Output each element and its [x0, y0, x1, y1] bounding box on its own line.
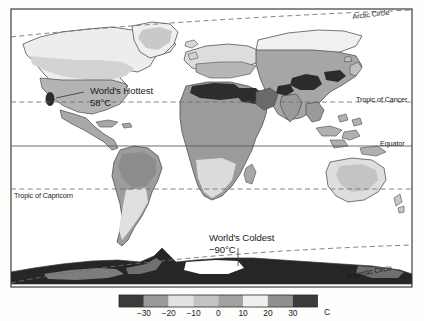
legend-tick-30: 30 — [280, 308, 305, 318]
annotation-worlds-coldest: World's Coldest −90°C — [209, 232, 274, 255]
map-figure: Arctic Circle Tropic of Cancer Equator T… — [0, 0, 424, 321]
legend-tick-minus10: −10 — [181, 308, 206, 318]
legend-tick-20: 20 — [255, 308, 280, 318]
latline-label-equator: Equator — [380, 139, 404, 148]
latline-label-tropic-of-capricorn: Tropic of Capricorn — [14, 191, 73, 200]
annotation-worlds-hottest-value: 58°C — [90, 97, 153, 109]
legend-tick-minus20: −20 — [156, 308, 181, 318]
latline-label-tropic-of-cancer: Tropic of Cancer — [356, 95, 407, 104]
annotation-worlds-coldest-value: −90°C — [209, 244, 274, 256]
legend-tick-0: 0 — [206, 308, 231, 318]
legend-tick-minus30: −30 — [131, 308, 156, 318]
legend-colorbar — [119, 295, 317, 307]
annotation-worlds-hottest-title: World's Hottest — [90, 85, 153, 97]
hotspot-death-valley — [46, 92, 55, 106]
annotation-worlds-coldest-title: World's Coldest — [209, 232, 274, 244]
legend-unit-label: C — [324, 307, 330, 317]
annotation-worlds-hottest: World's Hottest 58°C — [90, 85, 153, 108]
legend-tick-10: 10 — [231, 308, 256, 318]
